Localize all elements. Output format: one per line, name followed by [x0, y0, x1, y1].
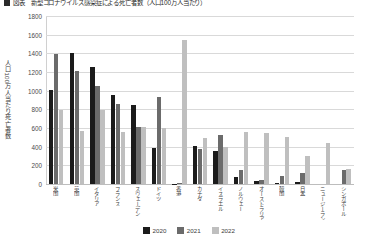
bar-group — [313, 16, 334, 184]
x-axis-tick-label: イタリア — [94, 186, 100, 206]
bar-2022 — [264, 133, 268, 184]
bar-2021 — [54, 54, 58, 184]
bar-group — [333, 16, 354, 184]
bar-2020 — [152, 148, 156, 184]
bar-2021 — [177, 183, 181, 184]
x-axis-tick: 韓国 — [272, 186, 293, 222]
y-axis-label: 人口100万人当たり死亡者数 — [2, 16, 13, 184]
y-axis-tick-label: 1400 — [28, 50, 42, 57]
bar-group — [149, 16, 170, 184]
x-axis-tick-label: ドイツ — [156, 186, 162, 201]
plot-area: 020040060080010001200140016001800 — [46, 16, 354, 184]
x-axis-tick: スウェーデン — [128, 186, 149, 222]
legend-label: 2020 — [153, 227, 167, 234]
x-axis-tick: 米国 — [46, 186, 67, 222]
y-axis-tick-label: 200 — [31, 162, 42, 169]
bar-group — [292, 16, 313, 184]
bar-2021 — [280, 176, 284, 184]
bar-group — [251, 16, 272, 184]
x-axis-tick: ノルウェー — [231, 186, 252, 222]
legend-item[interactable]: 2022 — [212, 227, 235, 234]
bar-2022 — [203, 138, 207, 184]
bar-2020 — [193, 146, 197, 184]
y-axis-label-text: 人口100万人当たり死亡者数 — [2, 60, 13, 139]
y-axis-tick-label: 400 — [31, 143, 42, 150]
chart-title-row: 図表 新型コロナウイルス感染症による死亡者数（人口100万人当たり） — [0, 0, 378, 9]
bar-2022 — [223, 147, 227, 184]
bar-2020 — [49, 90, 53, 184]
x-axis-tick-label: イスラエル — [218, 186, 224, 211]
legend-swatch — [212, 227, 219, 234]
bar-2021 — [259, 180, 263, 184]
bar-group — [210, 16, 231, 184]
page-title: 図表 新型コロナウイルス感染症による死亡者数（人口100万人当たり） — [13, 0, 206, 7]
bar-2021 — [342, 170, 346, 184]
bar-2021 — [95, 86, 99, 184]
bar-2022 — [305, 156, 309, 184]
x-axis-tick: 香港 — [169, 186, 190, 222]
x-axis-tick-label: 米国 — [53, 186, 59, 196]
y-axis-tick-label: 600 — [31, 125, 42, 132]
bar-2022 — [346, 169, 350, 184]
bar-2020 — [90, 67, 94, 184]
bar-2022 — [244, 132, 248, 184]
x-axis-tick: イタリア — [87, 186, 108, 222]
bar-group — [190, 16, 211, 184]
bar-2021 — [136, 127, 140, 184]
bar-groups — [46, 16, 354, 184]
x-axis-tick-label: 香港 — [176, 186, 182, 196]
chart-figure: 図表 新型コロナウイルス感染症による死亡者数（人口100万人当たり） 人口100… — [0, 0, 378, 248]
bar-group — [67, 16, 88, 184]
x-axis-tick-labels: 米国英国イタリアフランススウェーデンドイツ香港カナダイスラエルノルウェーオースト… — [46, 186, 354, 222]
x-axis-tick: ニュージーランド — [313, 186, 334, 222]
bar-2022 — [80, 131, 84, 184]
legend-swatch — [143, 227, 150, 234]
x-axis-tick-label: 韓国 — [279, 186, 285, 196]
bar-2022 — [100, 110, 104, 184]
x-axis-tick: ドイツ — [149, 186, 170, 222]
y-axis-tick-label: 0 — [38, 181, 42, 188]
x-axis-tick-label: 日本 — [300, 186, 306, 196]
bar-2022 — [182, 40, 186, 184]
legend-swatch — [177, 227, 184, 234]
bar-2022 — [121, 132, 125, 184]
bar-2021 — [300, 173, 304, 184]
y-axis-tick-label: 1800 — [28, 13, 42, 20]
x-axis-tick: フランス — [108, 186, 129, 222]
y-axis-tick-label: 800 — [31, 106, 42, 113]
x-axis-tick-label: オーストラリア — [259, 186, 265, 220]
legend-label: 2021 — [187, 227, 201, 234]
x-axis-tick-label: スウェーデン — [135, 186, 141, 216]
bar-2020 — [275, 183, 279, 184]
x-axis-tick-label: フランス — [115, 186, 121, 206]
x-axis-tick-label: ノルウェー — [238, 186, 244, 211]
y-axis-tick-label: 1600 — [28, 31, 42, 38]
bar-2020 — [295, 182, 299, 184]
square-bullet-icon — [4, 0, 10, 6]
bar-2022 — [285, 137, 289, 184]
bar-group — [128, 16, 149, 184]
x-axis-tick: イスラエル — [210, 186, 231, 222]
bar-2021 — [116, 104, 120, 184]
legend-item[interactable]: 2021 — [177, 227, 200, 234]
bar-2022 — [141, 127, 145, 184]
bar-2022 — [59, 110, 63, 184]
legend-item[interactable]: 2020 — [143, 227, 166, 234]
bar-2020 — [213, 151, 217, 184]
bar-2021 — [198, 149, 202, 184]
bar-2020 — [111, 95, 115, 184]
bar-2021 — [157, 97, 161, 184]
chart-legend: 202020212022 — [0, 224, 378, 236]
x-axis-tick-label: 英国 — [74, 186, 80, 196]
x-axis-tick: カナダ — [190, 186, 211, 222]
bar-group — [46, 16, 67, 184]
x-axis-tick-label: ニュージーランド — [320, 186, 326, 220]
bar-2020 — [234, 177, 238, 184]
bar-2020 — [70, 53, 74, 184]
bar-group — [169, 16, 190, 184]
bar-group — [231, 16, 252, 184]
bar-2020 — [131, 105, 135, 184]
bar-group — [87, 16, 108, 184]
x-axis-tick: シンガポール — [333, 186, 354, 222]
gridline — [46, 184, 354, 185]
